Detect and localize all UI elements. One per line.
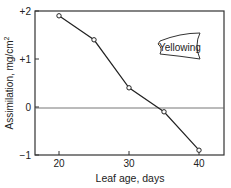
- x-axis: 203040: [53, 151, 205, 169]
- data-point-marker: [57, 14, 61, 18]
- yellowing-annotation: Yellowing: [158, 33, 201, 59]
- series-markers: [57, 14, 201, 153]
- x-tick-label: 40: [193, 158, 205, 169]
- x-tick-label: 30: [123, 158, 135, 169]
- x-tick-label: 20: [53, 158, 65, 169]
- y-tick-label: −1: [20, 150, 32, 161]
- data-point-marker: [92, 38, 96, 42]
- y-tick-label: +1: [20, 54, 32, 65]
- x-axis-label: Leaf age, days: [96, 172, 165, 184]
- data-point-marker: [127, 86, 131, 90]
- annotation-text: Yellowing: [159, 42, 201, 53]
- data-point-marker: [162, 110, 166, 114]
- data-point-marker: [197, 148, 201, 152]
- y-axis: +2+10−1: [20, 6, 39, 161]
- assimilation-chart: +2+10−1 203040 Yellowing Leaf age, days …: [0, 0, 231, 188]
- y-tick-label: +2: [20, 6, 32, 17]
- y-axis-label: Assimilation, mg/cm2: [3, 37, 15, 130]
- y-tick-label: 0: [25, 102, 31, 113]
